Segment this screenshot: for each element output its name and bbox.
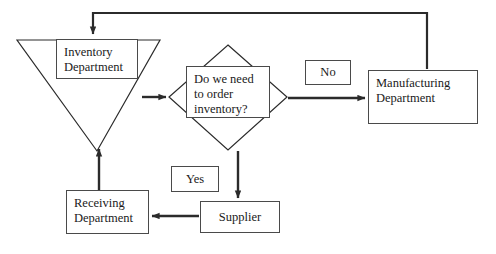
- node-receiving-department[interactable]: Receiving Department: [66, 190, 149, 234]
- node-inventory-department[interactable]: Inventory Department: [56, 39, 138, 79]
- node-manufacturing-department[interactable]: Manufacturing Department: [368, 70, 478, 124]
- flowchart-diagram: Inventory Department Do we need to order…: [0, 0, 496, 254]
- node-supplier[interactable]: Supplier: [200, 201, 280, 233]
- edge-label-no: No: [305, 60, 351, 85]
- edge-label-yes: Yes: [171, 166, 219, 192]
- node-decision-order-inventory[interactable]: Do we need to order inventory?: [186, 66, 270, 118]
